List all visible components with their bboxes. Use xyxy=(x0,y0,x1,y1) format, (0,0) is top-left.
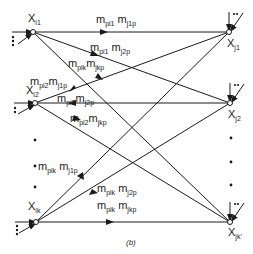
node-label-xj1: Xj1 xyxy=(227,37,240,51)
node-label-xjk: Xjk' xyxy=(228,226,242,240)
node-xjk xyxy=(228,220,233,225)
node-label-xi1: Xi1 xyxy=(28,12,41,26)
network-diagram xyxy=(0,0,253,254)
edge-label-ik-j2: mpik mj2p xyxy=(97,183,137,196)
source-input-dots xyxy=(12,36,18,235)
node-xik xyxy=(34,220,39,225)
edge-label-i1-j2: mpi1 mj2p xyxy=(90,42,130,55)
edge-label-i2-jk: mpi2mjkp xyxy=(70,113,107,126)
node-xi2 xyxy=(33,101,38,106)
edge-label-i1-jk: mpikmjkp xyxy=(68,58,104,71)
node-label-xik: Xik xyxy=(28,200,40,214)
figure-caption: (b) xyxy=(126,238,136,247)
edge-label-i1-j1: mpi1 mj1p xyxy=(96,14,136,27)
edge-label-i2-j1: mpi2mj1p xyxy=(30,76,67,89)
edge-label-ik-j1: mpik mj1p xyxy=(38,161,78,174)
node-xj1 xyxy=(227,30,232,35)
node-xi1 xyxy=(31,30,36,35)
edge-label-i2-j2: mpi2mj2p xyxy=(57,93,94,106)
node-xj2 xyxy=(228,101,233,106)
edge-label-ik-jk: mpik mjkp xyxy=(97,200,136,213)
node-label-xj2: Xj2 xyxy=(228,108,241,122)
